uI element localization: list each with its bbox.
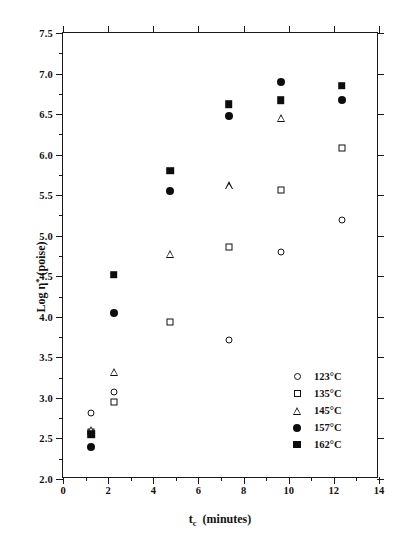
y-tick bbox=[56, 236, 63, 237]
data-point bbox=[277, 78, 285, 86]
legend-marker bbox=[288, 373, 306, 380]
data-point bbox=[225, 244, 232, 251]
y-tick-right bbox=[377, 276, 384, 277]
x-tick-top bbox=[108, 26, 109, 33]
x-tick-top bbox=[334, 26, 335, 33]
data-point bbox=[277, 186, 284, 193]
y-tick-label: 2.0 bbox=[39, 474, 53, 485]
data-point bbox=[225, 101, 233, 109]
legend-marker bbox=[288, 390, 306, 397]
filled-square-marker bbox=[338, 82, 346, 90]
x-tick-label: 10 bbox=[283, 485, 294, 496]
legend-item: 123°C bbox=[288, 368, 380, 385]
legend-marker bbox=[288, 424, 306, 432]
y-tick-label: 3.5 bbox=[39, 352, 53, 363]
y-tick-minor bbox=[59, 175, 63, 176]
y-tick-right bbox=[377, 74, 384, 75]
x-tick-label: 14 bbox=[374, 485, 385, 496]
data-point bbox=[110, 398, 117, 405]
x-tick bbox=[379, 477, 380, 484]
y-tick bbox=[56, 114, 63, 115]
x-tick bbox=[63, 477, 64, 484]
open-square-marker bbox=[338, 145, 345, 152]
y-tick-minor bbox=[59, 215, 63, 216]
legend-label: 123°C bbox=[314, 371, 342, 382]
data-point bbox=[110, 309, 118, 317]
x-tick-label: 0 bbox=[60, 485, 65, 496]
y-tick-label: 4.5 bbox=[39, 271, 53, 282]
data-point bbox=[110, 271, 118, 279]
data-point bbox=[110, 368, 118, 376]
open-triangle-marker bbox=[277, 114, 285, 122]
x-tick-minor bbox=[311, 477, 312, 481]
open-triangle-marker bbox=[293, 407, 301, 415]
legend-marker bbox=[288, 441, 306, 449]
data-point bbox=[338, 216, 345, 223]
y-tick-label: 6.0 bbox=[39, 149, 53, 160]
x-tick-top bbox=[289, 26, 290, 33]
legend-label: 157°C bbox=[314, 422, 342, 433]
open-circle-marker bbox=[338, 216, 345, 223]
data-point bbox=[277, 248, 284, 255]
x-tick-label: 2 bbox=[106, 485, 111, 496]
data-point bbox=[87, 443, 95, 451]
legend-item: 135°C bbox=[288, 385, 380, 402]
legend-item: 157°C bbox=[288, 419, 380, 436]
x-axis-title: tc (minutes) bbox=[62, 512, 378, 528]
y-tick-minor bbox=[59, 256, 63, 257]
data-point bbox=[166, 187, 174, 195]
filled-circle-marker bbox=[110, 309, 118, 317]
y-tick bbox=[56, 33, 63, 34]
legend-label: 162°C bbox=[314, 439, 342, 450]
legend-item: 162°C bbox=[288, 436, 380, 453]
filled-circle-marker bbox=[338, 96, 346, 104]
y-tick bbox=[56, 438, 63, 439]
x-tick bbox=[334, 477, 335, 484]
y-tick bbox=[56, 357, 63, 358]
data-point bbox=[167, 318, 174, 325]
open-square-marker bbox=[110, 398, 117, 405]
y-tick-label: 2.5 bbox=[39, 433, 53, 444]
y-tick-label: 5.5 bbox=[39, 190, 53, 201]
open-square-marker bbox=[225, 244, 232, 251]
data-point bbox=[277, 97, 285, 105]
x-tick bbox=[244, 477, 245, 484]
x-tick bbox=[289, 477, 290, 484]
chart-figure: Log η* (poise) tc (minutes) 2.02.53.03.5… bbox=[0, 0, 401, 553]
filled-circle-marker bbox=[225, 112, 233, 120]
y-tick-minor bbox=[59, 297, 63, 298]
x-tick-top bbox=[198, 26, 199, 33]
y-tick bbox=[56, 317, 63, 318]
data-point bbox=[166, 250, 174, 258]
y-tick-minor bbox=[59, 337, 63, 338]
y-tick-minor bbox=[59, 378, 63, 379]
data-point bbox=[338, 96, 346, 104]
x-tick-minor bbox=[356, 477, 357, 481]
open-square-marker bbox=[167, 318, 174, 325]
data-point bbox=[87, 431, 95, 439]
filled-circle-marker bbox=[87, 443, 95, 451]
x-axis-title-rest: (minutes) bbox=[203, 512, 252, 526]
open-circle-marker bbox=[277, 248, 284, 255]
open-triangle-marker bbox=[110, 368, 118, 376]
x-tick-label: 4 bbox=[151, 485, 156, 496]
data-point bbox=[225, 112, 233, 120]
y-tick-label: 6.5 bbox=[39, 109, 53, 120]
x-tick-label: 8 bbox=[241, 485, 246, 496]
y-tick-right bbox=[377, 33, 384, 34]
filled-square-marker bbox=[293, 441, 301, 449]
data-point bbox=[88, 409, 95, 416]
x-tick-minor bbox=[266, 477, 267, 481]
open-circle-marker bbox=[110, 389, 117, 396]
filled-square-marker bbox=[225, 101, 233, 109]
y-tick bbox=[56, 276, 63, 277]
legend-item: 145°C bbox=[288, 402, 380, 419]
y-tick-right bbox=[377, 114, 384, 115]
y-tick-label: 7.0 bbox=[39, 68, 53, 79]
y-tick-right bbox=[377, 357, 384, 358]
open-circle-marker bbox=[88, 409, 95, 416]
y-tick-label: 4.0 bbox=[39, 311, 53, 322]
y-tick-minor bbox=[59, 418, 63, 419]
data-point bbox=[277, 114, 285, 122]
data-point bbox=[166, 167, 174, 175]
